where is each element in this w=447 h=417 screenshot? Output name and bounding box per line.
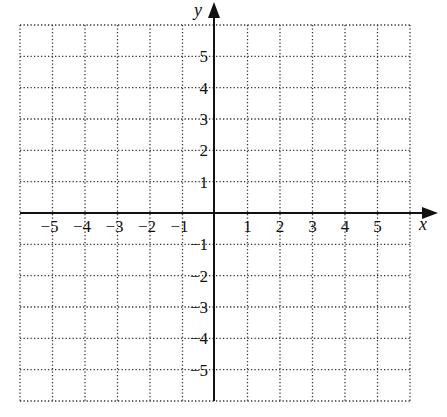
y-tick-label: −2: [190, 267, 208, 286]
x-tick-label: −3: [105, 217, 123, 236]
y-tick-label: 5: [200, 47, 209, 66]
y-tick-label: −5: [190, 361, 208, 380]
x-tick-label: 1: [243, 217, 252, 236]
coordinate-plane: x y −5−4−3−2−112345 54321−1−2−3−4−5: [0, 0, 447, 417]
x-tick-label: −1: [170, 217, 188, 236]
y-tick-label: 1: [200, 173, 209, 192]
y-axis-arrow-icon: [208, 2, 220, 18]
x-tick-label: 3: [308, 217, 317, 236]
x-tick-label: 2: [276, 217, 285, 236]
y-tick-label: 3: [200, 110, 209, 129]
y-tick-label: 4: [200, 79, 209, 98]
y-tick-label: −3: [190, 298, 208, 317]
y-axis-label: y: [192, 0, 202, 20]
x-tick-label: −5: [40, 217, 58, 236]
y-tick-label: −1: [190, 235, 208, 254]
x-tick-label: −4: [73, 217, 92, 236]
x-tick-label: −2: [138, 217, 156, 236]
y-tick-label: 2: [200, 141, 209, 160]
x-axis-label: x: [418, 214, 427, 234]
x-tick-labels: −5−4−3−2−112345: [40, 217, 381, 236]
axes: x y: [20, 0, 438, 401]
x-tick-label: 4: [341, 217, 350, 236]
y-tick-label: −4: [190, 329, 209, 348]
x-tick-label: 5: [373, 217, 382, 236]
